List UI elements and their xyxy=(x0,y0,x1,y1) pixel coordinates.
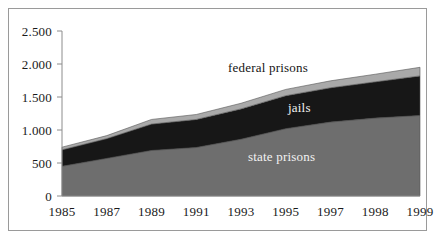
x-tick-label: 1987 xyxy=(85,205,129,218)
y-tick-label: 1.000 xyxy=(4,124,52,137)
x-tick-label: 1991 xyxy=(174,205,218,218)
chart-figure: 2.500 2.000 1.500 1.000 500 0 1985 1987 … xyxy=(0,0,435,239)
x-tick-label: 1999 xyxy=(398,205,435,218)
x-tick-label: 1989 xyxy=(130,205,174,218)
y-tick-label: 0 xyxy=(4,190,52,203)
x-tick-label: 1998 xyxy=(353,205,397,218)
y-tick-label: 2.500 xyxy=(4,25,52,38)
series-label-jails: jails xyxy=(288,101,311,115)
y-tick-label: 2.000 xyxy=(4,58,52,71)
x-tick-label: 1985 xyxy=(40,205,84,218)
x-tick-label: 1997 xyxy=(309,205,353,218)
x-tick-label: 1993 xyxy=(219,205,263,218)
series-label-federal-prisons: federal prisons xyxy=(228,61,308,75)
figure-border xyxy=(8,8,427,231)
y-tick-label: 1.500 xyxy=(4,91,52,104)
series-label-state-prisons: state prisons xyxy=(248,150,315,164)
y-tick-label: 500 xyxy=(4,157,52,170)
x-tick-label: 1995 xyxy=(264,205,308,218)
